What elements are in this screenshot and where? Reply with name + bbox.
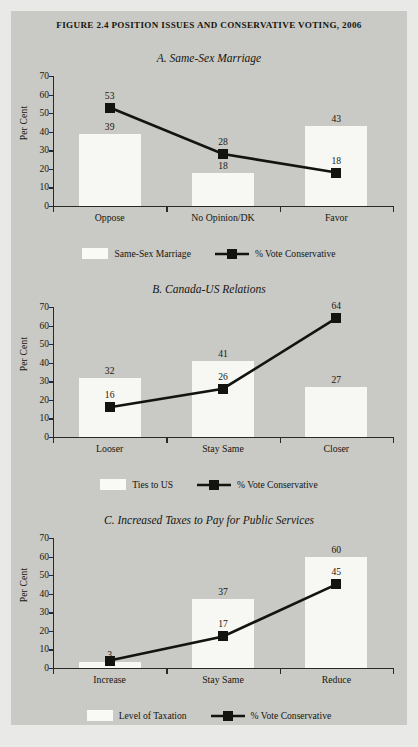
legend-bar-label: Level of Taxation <box>113 710 187 721</box>
y-tick-label: 20 <box>40 626 50 636</box>
y-tick-label: 0 <box>44 201 49 211</box>
x-category-label: No Opinion/DK <box>163 212 283 223</box>
figure-title: Figure 2.4 Position Issues and Conservat… <box>0 20 418 30</box>
panel-c-axes: 0102030405060703376031745IncreaseStay Sa… <box>53 538 393 668</box>
panel-c-title: C. Increased Taxes to Pay for Public Ser… <box>11 514 407 526</box>
y-tick-label: 70 <box>40 302 50 312</box>
line-value-label: 17 <box>203 618 243 629</box>
legend-bar-swatch <box>100 479 126 490</box>
figure-page: Figure 2.4 Position Issues and Conservat… <box>0 0 418 747</box>
line-value-label: 18 <box>316 155 356 166</box>
y-tick-label: 60 <box>40 552 50 562</box>
line-marker <box>105 103 115 113</box>
panel-a-axes: 010203040506070391843532818OpposeNo Opin… <box>53 76 393 206</box>
x-category-label: Oppose <box>50 212 170 223</box>
legend-bar-label: Same-Sex Marriage <box>108 248 190 259</box>
y-tick-label: 70 <box>40 71 50 81</box>
line-marker <box>331 313 341 323</box>
line-value-label: 64 <box>316 300 356 311</box>
y-tick-label: 20 <box>40 395 50 405</box>
legend-line-label: % Vote Conservative <box>245 710 332 721</box>
panel-b-axes: 010203040506070324127162664LooserStay Sa… <box>53 307 393 437</box>
x-category-label: Favor <box>276 212 396 223</box>
legend-line-label: % Vote Conservative <box>231 479 318 490</box>
x-axis-line <box>53 437 393 438</box>
x-category-label: Increase <box>50 674 170 685</box>
line-marker <box>218 384 228 394</box>
x-category-label: Closer <box>276 443 396 454</box>
panel-b-ylabel: Per Cent <box>19 324 29 384</box>
panel-a-title: A. Same-Sex Marriage <box>11 52 407 64</box>
panel-c-plot: Per Cent 0102030405060703376031745Increa… <box>11 532 407 684</box>
y-tick-label: 50 <box>40 570 50 580</box>
y-tick-label: 30 <box>40 607 50 617</box>
y-tick-label: 50 <box>40 108 50 118</box>
line-value-label: 45 <box>316 566 356 577</box>
x-category-label: Looser <box>50 443 170 454</box>
y-tick-label: 10 <box>40 413 50 423</box>
panel-b-plot: Per Cent 010203040506070324127162664Loos… <box>11 301 407 453</box>
y-tick-label: 50 <box>40 339 50 349</box>
panel-a-legend: Same-Sex Marriage% Vote Conservative <box>11 248 407 260</box>
y-tick-label: 40 <box>40 589 50 599</box>
y-tick-label: 60 <box>40 321 50 331</box>
legend-bar-swatch <box>87 710 113 721</box>
y-tick-label: 10 <box>40 182 50 192</box>
y-tick-label: 70 <box>40 533 50 543</box>
legend-bar-swatch <box>82 248 108 259</box>
line-marker <box>105 402 115 412</box>
y-tick-label: 40 <box>40 127 50 137</box>
line-value-label: 53 <box>90 90 130 101</box>
y-tick-label: 20 <box>40 164 50 174</box>
line-marker <box>105 656 115 666</box>
x-category-label: Stay Same <box>163 674 283 685</box>
x-category-label: Stay Same <box>163 443 283 454</box>
panel-c-ylabel: Per Cent <box>19 555 29 615</box>
y-tick-label: 60 <box>40 90 50 100</box>
y-tick-label: 40 <box>40 358 50 368</box>
y-tick-label: 0 <box>44 432 49 442</box>
y-tick-label: 30 <box>40 376 50 386</box>
x-axis-line <box>53 206 393 207</box>
x-category-label: Reduce <box>276 674 396 685</box>
line-value-label: 26 <box>203 371 243 382</box>
panel-a-plot: Per Cent 010203040506070391843532818Oppo… <box>11 70 407 222</box>
line-series <box>53 538 393 668</box>
line-marker <box>331 168 341 178</box>
line-value-label: 28 <box>203 136 243 147</box>
legend-line-label: % Vote Conservative <box>249 248 336 259</box>
y-tick-label: 30 <box>40 145 50 155</box>
y-tick-label: 0 <box>44 663 49 673</box>
legend-line-marker-icon <box>211 710 245 722</box>
panel-a-ylabel: Per Cent <box>19 93 29 153</box>
panel-b-title: B. Canada-US Relations <box>11 283 407 295</box>
panel-b-legend: Ties to US% Vote Conservative <box>11 479 407 491</box>
line-marker <box>218 149 228 159</box>
line-value-label: 16 <box>90 389 130 400</box>
y-tick-label: 10 <box>40 644 50 654</box>
panel-c-legend: Level of Taxation% Vote Conservative <box>11 710 407 722</box>
x-axis-line <box>53 668 393 669</box>
legend-line-marker-icon <box>215 248 249 260</box>
legend-line-marker-icon <box>197 479 231 491</box>
line-marker <box>331 579 341 589</box>
legend-bar-label: Ties to US <box>126 479 173 490</box>
line-marker <box>218 631 228 641</box>
